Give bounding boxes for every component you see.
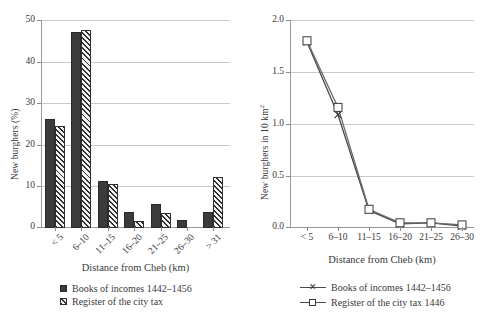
left-ytick-label-30: 30	[13, 97, 35, 107]
square-marker-icon	[309, 299, 316, 306]
right-chart-plot-area: 2.0 1.5 1.0 0.5 0.0	[290, 20, 474, 228]
left-gridline-20	[41, 145, 230, 146]
left-ytick-label-10: 10	[13, 180, 35, 190]
left-gridline-10	[41, 186, 230, 187]
left-xtick-mark-6	[187, 227, 188, 231]
legend-item-register-city-tax-line: Register of the city tax 1446	[300, 295, 451, 310]
left-chart-x-axis-title: Distance from Cheb (km)	[41, 262, 230, 273]
right-ytick-label-1-5: 1.5	[258, 66, 284, 76]
left-bar-series1-cat7	[203, 212, 213, 228]
right-chart-series-graphics	[290, 20, 474, 228]
left-y-axis-line	[41, 20, 42, 228]
left-ytick-mark-10	[37, 186, 41, 187]
left-ytick-mark-40	[37, 62, 41, 63]
right-chart-x-axis-title: Distance from Cheb (km)	[290, 254, 474, 265]
right-line-chart-panel: New burghers in 10 km2 2.0 1.5 1.0 0.5 0…	[246, 0, 492, 319]
legend-label-register-city-tax-line: Register of the city tax 1446	[331, 297, 445, 308]
figure-two-panel-charts: New burghers (%) 50 40 30 20 10	[0, 0, 492, 319]
right-xtick-mark-2	[338, 227, 339, 231]
left-ytick-mark-30	[37, 103, 41, 104]
right-xtick-mark-6	[462, 227, 463, 231]
hatched-square-swatch-icon	[60, 298, 67, 305]
right-xtick-mark-1	[307, 227, 308, 231]
right-marker-square-cat5	[427, 219, 435, 227]
right-marker-square-group	[303, 37, 466, 229]
solid-square-swatch-icon	[60, 285, 67, 292]
left-ytick-label-0: 0	[13, 221, 35, 231]
left-gridline-30	[41, 103, 230, 104]
right-marker-square-cat4	[396, 219, 404, 227]
x-marker-icon: ✕	[309, 284, 316, 291]
left-ytick-mark-0	[37, 227, 41, 228]
left-ytick-label-40: 40	[13, 56, 35, 66]
right-marker-square-cat2	[334, 103, 342, 111]
left-chart-plot-area: 50 40 30 20 10 0	[41, 20, 230, 228]
left-gridline-50	[41, 20, 230, 21]
right-marker-square-cat3	[365, 205, 373, 213]
left-bar-series1-cat3	[98, 181, 108, 228]
right-marker-square-cat1	[303, 37, 311, 45]
right-line-series-register-city-tax	[307, 41, 462, 225]
left-bar-series1-cat5	[151, 204, 161, 229]
left-bar-series1-cat1	[45, 119, 55, 228]
right-y-axis-title-superscript: 2	[258, 105, 265, 108]
left-bar-series2-cat4	[134, 221, 144, 229]
line-with-square-marker-swatch-icon	[300, 298, 326, 307]
left-bar-series2-cat3	[108, 184, 118, 228]
left-gridline-40	[41, 62, 230, 63]
right-ytick-label-2-0: 2.0	[258, 14, 284, 24]
left-bar-series2-cat7	[213, 177, 223, 228]
right-xtick-mark-4	[400, 227, 401, 231]
right-ytick-label-0-0: 0.0	[258, 221, 284, 231]
left-ytick-mark-50	[37, 20, 41, 21]
left-bar-series1-cat6	[177, 220, 187, 228]
left-bar-series1-cat4	[124, 212, 134, 228]
legend-item-register-city-tax: Register of the city tax	[60, 295, 192, 308]
right-ytick-label-0-5: 0.5	[258, 170, 284, 180]
legend-label-books-of-incomes-line: Books of incomes 1442–1456	[331, 282, 451, 293]
right-chart-legend: ✕ Books of incomes 1442–1456 Register of…	[300, 280, 451, 310]
right-xtick-mark-3	[369, 227, 370, 231]
left-xtick-mark-3	[108, 227, 109, 231]
left-bar-series2-cat2	[81, 30, 91, 228]
left-ytick-mark-20	[37, 145, 41, 146]
left-xtick-mark-1	[55, 227, 56, 231]
left-bar-series2-cat5	[161, 213, 171, 228]
left-ytick-label-20: 20	[13, 139, 35, 149]
left-bar-series1-cat2	[71, 32, 81, 228]
left-bar-chart-panel: New burghers (%) 50 40 30 20 10	[0, 0, 246, 319]
right-ytick-label-1-0: 1.0	[258, 118, 284, 128]
legend-item-books-of-incomes: Books of incomes 1442–1456	[60, 282, 192, 295]
legend-label-books-of-incomes: Books of incomes 1442–1456	[72, 283, 192, 294]
left-bar-series2-cat1	[55, 126, 65, 228]
left-xtick-mark-5	[161, 227, 162, 231]
left-chart-legend: Books of incomes 1442–1456 Register of t…	[60, 282, 192, 308]
right-marker-x-group	[304, 38, 466, 229]
right-line-series-books-of-incomes	[307, 42, 462, 226]
left-xtick-mark-2	[81, 227, 82, 231]
legend-label-register-city-tax: Register of the city tax	[72, 296, 163, 307]
right-xtick-mark-5	[431, 227, 432, 231]
line-with-x-marker-swatch-icon: ✕	[300, 283, 326, 292]
left-xtick-mark-4	[134, 227, 135, 231]
legend-item-books-of-incomes-line: ✕ Books of incomes 1442–1456	[300, 280, 451, 295]
left-xtick-mark-7	[213, 227, 214, 231]
right-xtick-label-6: 26–30	[442, 232, 482, 242]
left-ytick-label-50: 50	[13, 14, 35, 24]
